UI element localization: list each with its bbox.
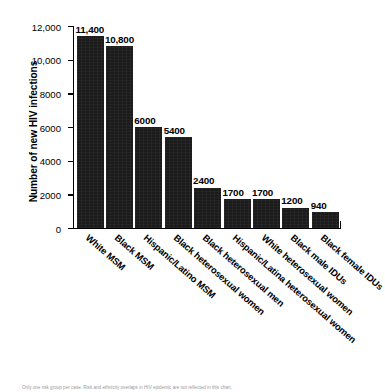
bar-value-label: 5400 bbox=[164, 125, 185, 136]
y-tick: 4000 bbox=[68, 161, 73, 162]
chart-footnote: Only one risk group per case. Risk and e… bbox=[22, 385, 352, 391]
bar-value-label: 1700 bbox=[252, 187, 273, 198]
y-tick-label: 8000 bbox=[40, 88, 61, 99]
bar: 10,800 bbox=[106, 46, 133, 228]
bar-value-label: 940 bbox=[311, 200, 327, 211]
y-tick: 0 bbox=[68, 228, 73, 229]
bar-value-label: 1200 bbox=[281, 195, 302, 206]
y-tick: 2000 bbox=[68, 194, 73, 195]
x-axis-right-cap bbox=[340, 221, 341, 229]
bar-value-label: 6000 bbox=[134, 115, 155, 126]
y-tick: 8000 bbox=[68, 93, 73, 94]
bar-value-label: 2400 bbox=[193, 175, 214, 186]
y-tick-label: 0 bbox=[56, 223, 61, 234]
y-tick-label: 12,000 bbox=[32, 21, 61, 32]
bar-value-label: 11,400 bbox=[76, 24, 105, 35]
x-axis-line bbox=[73, 228, 341, 229]
y-tick-label: 2000 bbox=[40, 189, 61, 200]
bar: 5400 bbox=[165, 137, 192, 228]
bar: 940 bbox=[312, 212, 339, 228]
bar: 6000 bbox=[135, 127, 162, 228]
y-tick-label: 6000 bbox=[40, 122, 61, 133]
y-tick: 10,000 bbox=[68, 60, 73, 61]
y-axis-line bbox=[73, 26, 74, 228]
bar-value-label: 1700 bbox=[223, 187, 244, 198]
bar: 2400 bbox=[194, 188, 221, 228]
bar: 1700 bbox=[224, 199, 251, 228]
bar: 11,400 bbox=[77, 36, 104, 228]
plot-area: 0200040006000800010,00012,000 11,40010,8… bbox=[73, 26, 341, 228]
y-tick-label: 10,000 bbox=[32, 55, 61, 66]
y-tick: 12,000 bbox=[68, 26, 73, 27]
bar-value-label: 10,800 bbox=[105, 34, 134, 45]
y-tick-label: 4000 bbox=[40, 156, 61, 167]
bar: 1700 bbox=[253, 199, 280, 228]
bar: 1200 bbox=[282, 208, 309, 228]
y-tick: 6000 bbox=[68, 127, 73, 128]
